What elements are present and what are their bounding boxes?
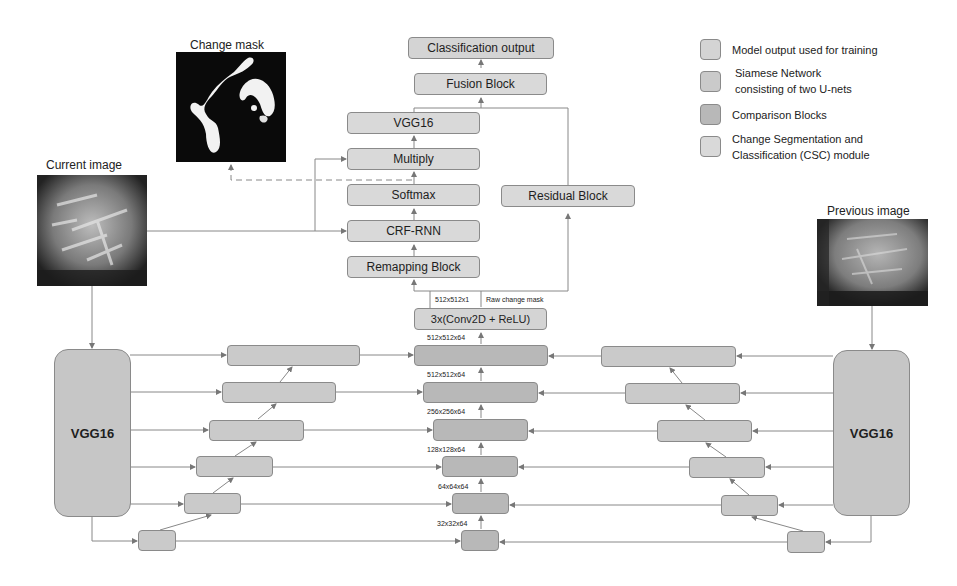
fusion-block: Fusion Block: [414, 73, 547, 95]
raw-mask-label: Raw change mask: [486, 296, 544, 303]
right-vgg16-encoder: VGG16: [833, 350, 910, 516]
right-decoder-block-1: [601, 346, 736, 367]
classification-output-block: Classification output: [408, 37, 554, 59]
dim-label-4: 128x128x64: [427, 446, 465, 453]
left-decoder-block-6: [138, 530, 176, 551]
legend-swatch-siamese: [700, 71, 721, 92]
right-decoder-block-3: [657, 420, 752, 442]
dim-label-3: 256x256x64: [427, 408, 465, 415]
comparison-block-6: [461, 530, 499, 551]
remapping-block: Remapping Block: [347, 256, 480, 278]
left-decoder-block-5: [184, 493, 241, 514]
left-decoder-block-2: [222, 382, 336, 403]
dim-label-2: 512x512x64: [427, 371, 465, 378]
dim-label-1: 512x512x64: [427, 334, 465, 341]
right-decoder-block-6: [787, 531, 825, 553]
previous-image-title: Previous image: [827, 204, 910, 218]
legend-label-csc: Change Segmentation and: [732, 132, 863, 147]
softmax-block: Softmax: [347, 184, 480, 206]
change-mask-title: Change mask: [190, 38, 264, 52]
legend-label-csc-2: Classification (CSC) module: [732, 148, 870, 163]
left-decoder-block-3: [209, 420, 304, 441]
current-image: [37, 175, 147, 286]
comparison-block-2: [423, 382, 538, 403]
left-decoder-block-4: [196, 456, 273, 477]
vgg16-classifier-block: VGG16: [347, 112, 480, 134]
right-decoder-block-5: [721, 495, 778, 516]
right-decoder-block-2: [625, 383, 740, 404]
crf-rnn-block: CRF-RNN: [347, 220, 480, 242]
legend-label-comparison: Comparison Blocks: [732, 108, 827, 123]
legend-label-model-output: Model output used for training: [732, 43, 878, 58]
raw-mask-dim-label: 512x512x1: [435, 296, 469, 303]
current-image-title: Current image: [46, 158, 122, 172]
previous-image: [817, 219, 928, 306]
dim-label-5: 64x64x64: [438, 483, 468, 490]
legend-swatch-comparison: [700, 104, 721, 125]
comparison-block-4: [442, 456, 518, 477]
legend-label-siamese: Siamese Network: [735, 66, 821, 81]
multiply-block: Multiply: [347, 148, 480, 170]
legend-label-siamese-2: consisting of two U-nets: [735, 82, 852, 97]
right-decoder-block-4: [689, 457, 765, 478]
dim-label-6: 32x32x64: [437, 520, 467, 527]
left-decoder-block-1: [227, 345, 360, 366]
legend-swatch-csc: [700, 136, 721, 157]
change-mask-image: [176, 52, 286, 162]
left-vgg16-encoder: VGG16: [54, 349, 131, 517]
legend-swatch-model-output: [700, 39, 721, 60]
comparison-block-5: [452, 493, 509, 514]
comparison-block-1: [414, 345, 548, 366]
comparison-block-3: [433, 419, 528, 441]
residual-block: Residual Block: [501, 185, 635, 207]
conv-relu-block: 3x(Conv2D + ReLU): [414, 308, 547, 330]
